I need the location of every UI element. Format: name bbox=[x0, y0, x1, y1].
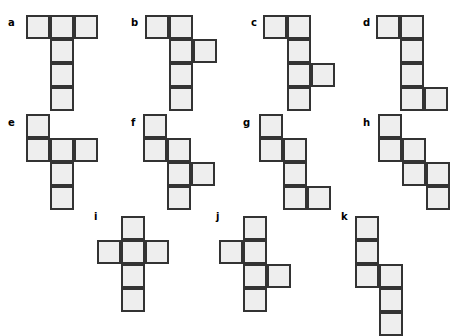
shape-cell[interactable] bbox=[311, 63, 335, 87]
shape-cell[interactable] bbox=[26, 114, 50, 138]
shape-label-j: j bbox=[216, 212, 219, 222]
shape-cell[interactable] bbox=[167, 162, 191, 186]
shape-cell[interactable] bbox=[219, 240, 243, 264]
shape-cell[interactable] bbox=[50, 39, 74, 63]
shape-cell[interactable] bbox=[259, 138, 283, 162]
shape-label-a: a bbox=[8, 18, 15, 28]
shape-cell[interactable] bbox=[263, 15, 287, 39]
shape-cell[interactable] bbox=[283, 138, 307, 162]
shape-cell[interactable] bbox=[121, 264, 145, 288]
shape-cell[interactable] bbox=[143, 114, 167, 138]
shape-cell[interactable] bbox=[355, 264, 379, 288]
shape-cell[interactable] bbox=[287, 63, 311, 87]
shape-cell[interactable] bbox=[50, 87, 74, 111]
shape-cell[interactable] bbox=[378, 114, 402, 138]
shape-cell[interactable] bbox=[121, 288, 145, 312]
shape-cell[interactable] bbox=[243, 264, 267, 288]
shape-cell[interactable] bbox=[355, 240, 379, 264]
shape-cell[interactable] bbox=[121, 240, 145, 264]
shape-cell[interactable] bbox=[191, 162, 215, 186]
shape-cell[interactable] bbox=[426, 162, 450, 186]
shape-cell[interactable] bbox=[26, 138, 50, 162]
shape-cell[interactable] bbox=[50, 15, 74, 39]
shape-cell[interactable] bbox=[287, 39, 311, 63]
shape-cell[interactable] bbox=[379, 288, 403, 312]
shape-cell[interactable] bbox=[376, 15, 400, 39]
shape-cell[interactable] bbox=[193, 39, 217, 63]
shape-cell[interactable] bbox=[424, 87, 448, 111]
shape-cell[interactable] bbox=[50, 63, 74, 87]
shape-cell[interactable] bbox=[243, 240, 267, 264]
shape-label-c: c bbox=[251, 18, 257, 28]
shape-cell[interactable] bbox=[167, 186, 191, 210]
shape-cell[interactable] bbox=[26, 15, 50, 39]
shape-cell[interactable] bbox=[379, 312, 403, 336]
shape-cell[interactable] bbox=[378, 138, 402, 162]
shape-label-d: d bbox=[363, 18, 370, 28]
shape-cell[interactable] bbox=[169, 87, 193, 111]
shape-label-i: i bbox=[94, 212, 97, 222]
shape-cell[interactable] bbox=[167, 138, 191, 162]
shape-cell[interactable] bbox=[145, 15, 169, 39]
shape-cell[interactable] bbox=[283, 186, 307, 210]
shape-cell[interactable] bbox=[400, 39, 424, 63]
shape-cell[interactable] bbox=[400, 63, 424, 87]
shape-cell[interactable] bbox=[402, 162, 426, 186]
shape-cell[interactable] bbox=[400, 87, 424, 111]
shape-cell[interactable] bbox=[50, 138, 74, 162]
shape-cell[interactable] bbox=[50, 162, 74, 186]
shape-cell[interactable] bbox=[74, 138, 98, 162]
shape-cell[interactable] bbox=[97, 240, 121, 264]
shape-cell[interactable] bbox=[169, 15, 193, 39]
shape-label-e: e bbox=[8, 118, 15, 128]
shape-cell[interactable] bbox=[169, 63, 193, 87]
shape-label-f: f bbox=[131, 118, 135, 128]
shape-cell[interactable] bbox=[287, 87, 311, 111]
shape-cell[interactable] bbox=[259, 114, 283, 138]
shape-cell[interactable] bbox=[426, 186, 450, 210]
shape-label-k: k bbox=[341, 212, 348, 222]
shape-cell[interactable] bbox=[400, 15, 424, 39]
shape-cell[interactable] bbox=[267, 264, 291, 288]
shape-label-g: g bbox=[243, 118, 250, 128]
shape-cell[interactable] bbox=[243, 216, 267, 240]
shape-cell[interactable] bbox=[287, 15, 311, 39]
shape-cell[interactable] bbox=[402, 138, 426, 162]
shape-cell[interactable] bbox=[283, 162, 307, 186]
shape-cell[interactable] bbox=[379, 264, 403, 288]
shape-cell[interactable] bbox=[121, 216, 145, 240]
shape-label-h: h bbox=[363, 118, 370, 128]
shape-cell[interactable] bbox=[307, 186, 331, 210]
shape-cell[interactable] bbox=[50, 186, 74, 210]
shape-cell[interactable] bbox=[169, 39, 193, 63]
shape-cell[interactable] bbox=[74, 15, 98, 39]
shape-cell[interactable] bbox=[143, 138, 167, 162]
shape-cell[interactable] bbox=[243, 288, 267, 312]
shape-cell[interactable] bbox=[145, 240, 169, 264]
shape-label-b: b bbox=[131, 18, 138, 28]
shape-cell[interactable] bbox=[355, 216, 379, 240]
